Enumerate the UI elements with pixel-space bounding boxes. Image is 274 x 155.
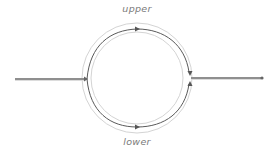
ring-split-diagram — [0, 0, 274, 155]
output-end-dot-icon — [260, 76, 263, 79]
lower-label: lower — [123, 136, 150, 147]
upper-label: upper — [122, 3, 151, 14]
inner-ring — [91, 32, 183, 124]
lower-path — [87, 79, 189, 127]
lower-arrow-icon — [135, 125, 140, 130]
upper-arrow-icon — [135, 27, 140, 32]
outer-ring — [82, 23, 192, 133]
